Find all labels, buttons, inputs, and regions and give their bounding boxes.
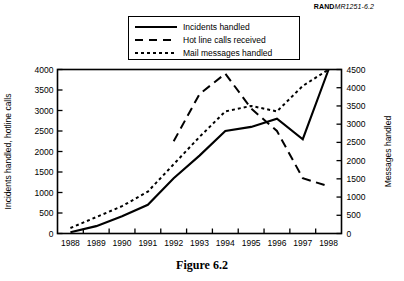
- x-axis-ticks: 1988198919901991199219931994199519961997…: [61, 229, 338, 248]
- y-axis-left-tick-label: 3500: [35, 85, 54, 95]
- legend-label-hot-line-calls-received: Hot line calls received: [183, 35, 266, 45]
- dotted-line-icon: [134, 48, 178, 58]
- x-axis-tick-label: 1996: [267, 238, 286, 248]
- series-line-solid: [70, 70, 328, 233]
- y-axis-left-tick-label: 3000: [35, 106, 54, 116]
- dashed-line-icon: [134, 35, 178, 45]
- figure-container: RANDMR1251-6.2 Incidents handled Hot lin…: [0, 0, 404, 281]
- y-axis-left-tick-label: 500: [39, 208, 53, 218]
- y-axis-right-tick-label: 1500: [347, 174, 366, 184]
- x-axis-tick-label: 1989: [87, 238, 106, 248]
- chart-legend: Incidents handled Hot line calls receive…: [128, 16, 300, 60]
- legend-item-incidents-handled: Incidents handled: [134, 20, 294, 33]
- y-axis-right-tick-label: 1000: [347, 192, 366, 202]
- x-axis-tick-label: 1992: [164, 238, 183, 248]
- y-axis-left-title: Incidents handled, hotline calls: [3, 94, 13, 210]
- data-series-group: [70, 70, 328, 233]
- legend-label-incidents-handled: Incidents handled: [183, 22, 250, 32]
- y-axis-right-tick-label: 3000: [347, 119, 366, 129]
- y-axis-right-tick-label: 2500: [347, 137, 366, 147]
- y-axis-left-ticks: 05001000150020002500300035004000: [35, 65, 63, 239]
- legend-item-hot-line-calls-received: Hot line calls received: [134, 33, 294, 46]
- y-axis-left-tick-label: 2500: [35, 126, 54, 136]
- x-axis-tick-label: 1997: [293, 238, 312, 248]
- y-axis-left-tick-label: 2000: [35, 147, 54, 157]
- x-axis-tick-label: 1994: [216, 238, 235, 248]
- axis-frame: [58, 70, 342, 234]
- y-axis-right-tick-label: 500: [347, 210, 361, 220]
- y-axis-right-tick-label: 2000: [347, 156, 366, 166]
- y-axis-right-tick-label: 0: [347, 229, 352, 239]
- y-axis-left-tick-label: 4000: [35, 65, 54, 75]
- y-axis-left-tick-label: 0: [49, 229, 54, 239]
- y-axis-left-tick-label: 1000: [35, 188, 54, 198]
- legend-label-mail-messages-handled: Mail messages handled: [183, 48, 272, 58]
- y-axis-left-tick-label: 1500: [35, 167, 54, 177]
- y-axis-right-tick-label: 4000: [347, 83, 366, 93]
- x-axis-tick-label: 1988: [61, 238, 80, 248]
- solid-line-icon: [134, 22, 178, 32]
- x-axis-tick-label: 1998: [319, 238, 338, 248]
- x-axis-tick-label: 1991: [138, 238, 157, 248]
- series-line-dotted: [70, 70, 328, 229]
- y-axis-right-tick-label: 3500: [347, 101, 366, 111]
- x-axis-tick-label: 1995: [242, 238, 261, 248]
- y-axis-right-tick-label: 4500: [347, 65, 366, 75]
- y-axis-right-title: Messages handled: [383, 116, 393, 188]
- x-axis-tick-label: 1993: [190, 238, 209, 248]
- x-axis-tick-label: 1990: [113, 238, 132, 248]
- legend-item-mail-messages-handled: Mail messages handled: [134, 46, 294, 59]
